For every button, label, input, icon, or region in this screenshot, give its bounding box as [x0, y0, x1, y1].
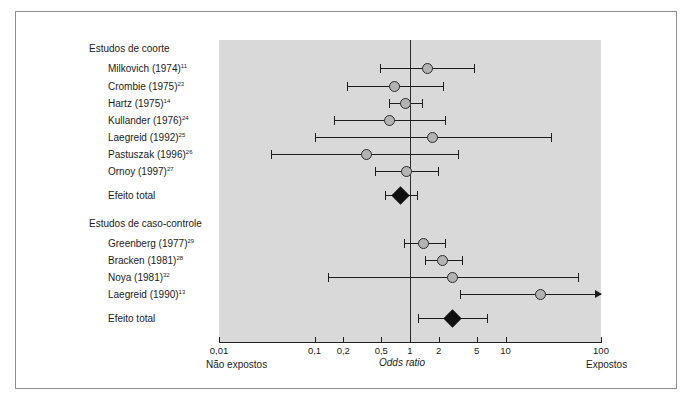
axis-title: Odds ratio [379, 357, 425, 368]
ci-cap-right [422, 99, 423, 108]
effect-marker [361, 149, 372, 160]
ci-cap-right [458, 150, 459, 159]
axis-tick [219, 337, 220, 343]
axis-tick [601, 337, 602, 343]
right-direction-label: Expostos [586, 359, 627, 370]
ci-cap-left [404, 239, 405, 248]
axis-tick [477, 337, 478, 343]
effect-marker [535, 289, 546, 300]
ci-cap-right [462, 256, 463, 265]
ci-cap-left [328, 273, 329, 282]
effect-marker [389, 81, 400, 92]
axis-tick [315, 337, 316, 343]
axis-tick [381, 337, 382, 343]
effect-marker [422, 63, 433, 74]
ci-cap-left [418, 314, 419, 323]
ci-cap-right [445, 239, 446, 248]
effect-marker [400, 98, 411, 109]
ci-cap-left [315, 133, 316, 142]
axis-tick [506, 337, 507, 343]
ci-cap-right [417, 191, 418, 200]
ci-cap-right [438, 167, 439, 176]
axis-tick [439, 337, 440, 343]
ci-cap-left [347, 82, 348, 91]
ci-cap-right [578, 273, 579, 282]
ci-arrow-right [595, 290, 602, 298]
ci-cap-left [425, 256, 426, 265]
summary-diamond [391, 186, 409, 204]
summary-diamond [444, 309, 462, 327]
effect-marker [447, 272, 458, 283]
effect-marker [384, 115, 395, 126]
ci-cap-right [445, 116, 446, 125]
ci-cap-left [385, 191, 386, 200]
ci-cap-left [334, 116, 335, 125]
axis-tick-label: 10 [482, 345, 530, 356]
ci-cap-left [389, 99, 390, 108]
effect-marker [401, 166, 412, 177]
ci-cap-left [460, 290, 461, 299]
plot-layer: 0,010,10,20,512510100 [16, 12, 678, 390]
ci-cap-right [443, 82, 444, 91]
ci-cap-left [375, 167, 376, 176]
effect-marker [437, 255, 448, 266]
ci-cap-left [271, 150, 272, 159]
forest-plot-figure: Estudos de coorte Milkovich (1974)11 Cro… [15, 11, 677, 389]
ci-cap-right [487, 314, 488, 323]
ci-cap-right [474, 64, 475, 73]
left-direction-label: Não expostos [206, 359, 267, 370]
effect-marker [418, 238, 429, 249]
effect-marker [427, 132, 438, 143]
ci-cap-right [551, 133, 552, 142]
axis-tick-label: 0,01 [195, 345, 243, 356]
axis-tick [410, 337, 411, 343]
axis-tick-label: 100 [577, 345, 625, 356]
axis-tick [343, 337, 344, 343]
ci-cap-left [380, 64, 381, 73]
ci-line [460, 294, 601, 295]
